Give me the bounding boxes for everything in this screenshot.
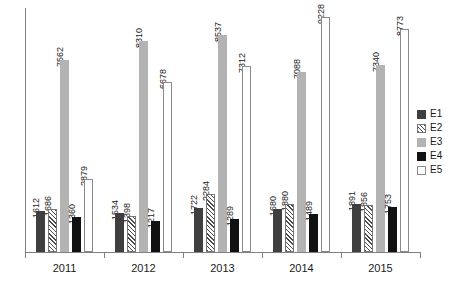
legend-item-E5[interactable]: E5 xyxy=(417,163,457,177)
bar-body: 7312 xyxy=(242,66,251,252)
chart-legend: E1E2E3E4E5 xyxy=(417,107,457,177)
bar-body: 7088 xyxy=(297,72,306,252)
bar-rect-E2[interactable] xyxy=(285,204,294,252)
bar-E1-2014[interactable]: 1680 xyxy=(273,8,282,252)
category-tick xyxy=(183,253,184,258)
legend-item-E2[interactable]: E2 xyxy=(417,121,457,135)
bar-rect-E5[interactable] xyxy=(321,17,330,252)
bar-E4-2014[interactable]: 1489 xyxy=(309,8,318,252)
bar-body: 8773 xyxy=(400,29,409,252)
bar-rect-E2[interactable] xyxy=(364,205,373,252)
bar-E5-2013[interactable]: 7312 xyxy=(242,8,251,252)
legend-swatch-E2-icon xyxy=(417,124,426,133)
legend-label: E4 xyxy=(430,151,442,161)
bar-E5-2012[interactable]: 6678 xyxy=(163,8,172,252)
bar-group-bars: 15341398831012176678 xyxy=(115,8,172,252)
category-label-2015: 2015 xyxy=(343,262,419,274)
bar-rect-E4[interactable] xyxy=(309,214,318,252)
bar-body: 1686 xyxy=(48,209,57,252)
bar-rect-E3[interactable] xyxy=(376,65,385,252)
bar-group-bars: 16121686756213602879 xyxy=(36,8,93,252)
legend-swatch-E1-icon xyxy=(417,110,426,119)
legend-swatch-E5-icon xyxy=(417,166,426,175)
legend-label: E2 xyxy=(430,123,442,133)
bar-E1-2013[interactable]: 1722 xyxy=(194,8,203,252)
legend-label: E3 xyxy=(430,137,442,147)
bar-rect-E1[interactable] xyxy=(194,208,203,252)
bar-rect-E2[interactable] xyxy=(127,216,136,252)
bar-group-bars: 17222284853712897312 xyxy=(194,8,251,252)
category-tick xyxy=(341,253,342,258)
bar-E2-2015[interactable]: 1856 xyxy=(364,8,373,252)
bar-body: 1360 xyxy=(72,217,81,252)
bar-body: 1217 xyxy=(151,221,160,252)
bar-body: 1880 xyxy=(285,204,294,252)
bar-E4-2012[interactable]: 1217 xyxy=(151,8,160,252)
bar-E4-2011[interactable]: 1360 xyxy=(72,8,81,252)
legend-label: E1 xyxy=(430,109,442,119)
bar-rect-E2[interactable] xyxy=(206,194,215,252)
legend-item-E3[interactable]: E3 xyxy=(417,135,457,149)
bar-rect-E5[interactable] xyxy=(400,29,409,252)
bar-rect-E4[interactable] xyxy=(230,219,239,252)
bar-rect-E4[interactable] xyxy=(72,217,81,252)
bar-rect-E4[interactable] xyxy=(388,207,397,252)
bar-E2-2013[interactable]: 2284 xyxy=(206,8,215,252)
bar-body: 2879 xyxy=(84,179,93,252)
bar-body: 1753 xyxy=(388,207,397,252)
x-axis-line xyxy=(25,252,421,253)
category-label-2012: 2012 xyxy=(106,262,182,274)
bar-body: 6678 xyxy=(163,82,172,252)
bar-rect-E2[interactable] xyxy=(48,209,57,252)
bar-E5-2015[interactable]: 8773 xyxy=(400,8,409,252)
category-label-2014: 2014 xyxy=(264,262,340,274)
bar-rect-E3[interactable] xyxy=(297,72,306,252)
bar-group-bars: 16801880708814899228 xyxy=(273,8,330,252)
category-tick xyxy=(104,253,105,258)
category-label-2011: 2011 xyxy=(27,262,103,274)
bar-body: 1398 xyxy=(127,216,136,252)
bar-body: 1856 xyxy=(364,205,373,252)
bar-E2-2011[interactable]: 1686 xyxy=(48,8,57,252)
bar-group-bars: 18911856734017538773 xyxy=(352,8,409,252)
bar-body: 2284 xyxy=(206,194,215,252)
bar-rect-E4[interactable] xyxy=(151,221,160,252)
bar-E5-2011[interactable]: 2879 xyxy=(84,8,93,252)
bar-rect-E1[interactable] xyxy=(36,211,45,252)
bar-rect-E5[interactable] xyxy=(163,82,172,252)
bar-body: 1722 xyxy=(194,208,203,252)
legend-label: E5 xyxy=(430,165,442,175)
category-label-2013: 2013 xyxy=(185,262,261,274)
category-tick xyxy=(262,253,263,258)
bar-body: 1289 xyxy=(230,219,239,252)
y-axis-line xyxy=(25,8,26,253)
bar-chart: 1612168675621360287915341398831012176678… xyxy=(0,0,457,291)
legend-item-E4[interactable]: E4 xyxy=(417,149,457,163)
bar-rect-E5[interactable] xyxy=(84,179,93,252)
bar-body: 9228 xyxy=(321,17,330,252)
bar-E5-2014[interactable]: 9228 xyxy=(321,8,330,252)
bar-rect-E1[interactable] xyxy=(273,209,282,252)
legend-item-E1[interactable]: E1 xyxy=(417,107,457,121)
bar-E2-2014[interactable]: 1880 xyxy=(285,8,294,252)
bar-body: 7340 xyxy=(376,65,385,252)
category-tick xyxy=(420,253,421,258)
bar-E4-2015[interactable]: 1753 xyxy=(388,8,397,252)
bar-E4-2013[interactable]: 1289 xyxy=(230,8,239,252)
legend-swatch-E4-icon xyxy=(417,152,426,161)
bar-body: 1489 xyxy=(309,214,318,252)
legend-swatch-E3-icon xyxy=(417,138,426,147)
bar-E3-2015[interactable]: 7340 xyxy=(376,8,385,252)
bar-rect-E5[interactable] xyxy=(242,66,251,252)
bar-E1-2015[interactable]: 1891 xyxy=(352,8,361,252)
bar-body: 1612 xyxy=(36,211,45,252)
bar-body: 1680 xyxy=(273,209,282,252)
category-tick xyxy=(25,253,26,258)
